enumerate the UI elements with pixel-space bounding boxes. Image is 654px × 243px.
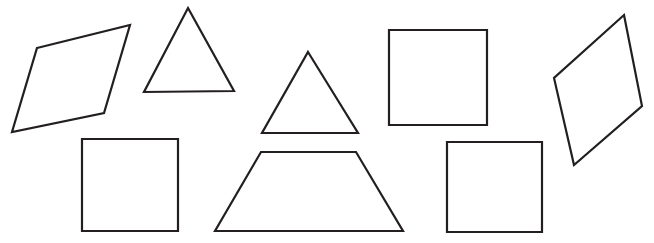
- square-top-right: [389, 30, 487, 125]
- square-bottom-left: [82, 139, 178, 231]
- shapes-svg: [0, 0, 654, 243]
- square-bottom-right: [447, 142, 542, 232]
- shapes-canvas: [0, 0, 654, 243]
